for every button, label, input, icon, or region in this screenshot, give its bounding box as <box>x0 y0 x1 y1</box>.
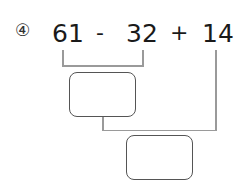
intermediate-answer-box[interactable] <box>69 72 136 117</box>
operand-2: 32 <box>126 21 158 46</box>
bracket-right-line <box>142 50 144 66</box>
connector-from-14-line <box>215 50 217 131</box>
problem-number-marker: ④ <box>15 22 30 39</box>
bracket-left-line <box>62 50 64 66</box>
final-answer-box[interactable] <box>126 135 193 180</box>
bracket-bottom-line <box>62 65 144 67</box>
operator-minus: - <box>96 22 104 44</box>
operator-plus: + <box>170 22 188 44</box>
operand-3: 14 <box>202 21 234 46</box>
operand-1: 61 <box>52 21 84 46</box>
connector-bottom-line <box>102 130 217 132</box>
